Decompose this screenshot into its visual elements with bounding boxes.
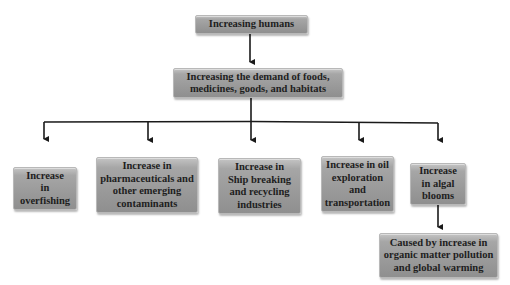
node-organic-pollution-warming: Caused by increase in organic matter pol… xyxy=(379,233,498,278)
branch-bus-line xyxy=(44,122,438,124)
node-label: Increase in overfishing xyxy=(20,170,70,208)
node-label: Increase in oil exploration and transpor… xyxy=(325,159,390,209)
node-label: Increase in algal blooms xyxy=(419,165,457,203)
node-ship-breaking: Increase in Ship breaking and recycling … xyxy=(218,158,301,214)
node-increasing-demand: Increasing the demand of foods, medicine… xyxy=(173,68,343,98)
node-overfishing: Increase in overfishing xyxy=(13,167,77,210)
node-label: Increase in pharmaceuticals and other em… xyxy=(100,160,194,210)
node-pharmaceuticals: Increase in pharmaceuticals and other em… xyxy=(96,157,198,213)
node-oil-exploration: Increase in oil exploration and transpor… xyxy=(321,156,394,212)
node-label: Increasing the demand of foods, medicine… xyxy=(186,71,329,96)
node-increasing-humans: Increasing humans xyxy=(195,15,308,34)
node-label: Increasing humans xyxy=(209,18,294,31)
node-label: Caused by increase in organic matter pol… xyxy=(384,237,493,275)
node-label: Increase in Ship breaking and recycling … xyxy=(228,161,291,211)
node-algal-blooms: Increase in algal blooms xyxy=(410,163,466,205)
